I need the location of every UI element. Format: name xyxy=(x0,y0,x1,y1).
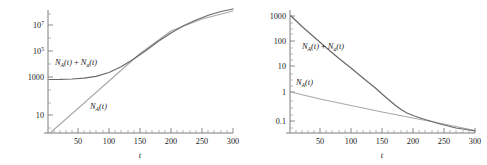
right-ytick-1: 1 xyxy=(281,88,285,97)
left-label-sum-t2: (t) xyxy=(89,58,97,67)
right-ytick-3: 100 xyxy=(273,37,285,46)
right-plot-svg: 1000 100 10 1 0.1 xyxy=(244,0,487,165)
left-ytick-2-base: 10 xyxy=(33,47,41,56)
right-y-ticks xyxy=(290,16,295,121)
left-ytick-0: 10 xyxy=(36,111,44,120)
right-xtick-3: 200 xyxy=(406,137,418,146)
left-xtick-4: 250 xyxy=(196,137,208,146)
right-xtick-0: 50 xyxy=(315,137,323,146)
right-label-na-t1: (t) xyxy=(305,78,313,87)
right-xtick-4: 250 xyxy=(437,137,449,146)
left-xtick-1: 100 xyxy=(103,137,115,146)
left-x-ticks xyxy=(78,128,233,133)
left-x-axis-title: t xyxy=(139,151,142,160)
chart-panel-right: 1000 100 10 1 0.1 xyxy=(244,0,487,165)
left-ytick-2-exp: 5 xyxy=(41,46,44,52)
right-x-ticks xyxy=(320,128,475,133)
left-ytick-3-base: 10 xyxy=(33,21,41,30)
left-curve-sum xyxy=(49,9,233,80)
svg-text:105: 105 xyxy=(33,46,44,56)
right-y-ticklabels: 1000 100 10 1 0.1 xyxy=(269,12,285,126)
two-panel-figure: 107 105 1000 10 xyxy=(0,0,487,165)
chart-panel-left: 107 105 1000 10 xyxy=(0,0,244,165)
left-curve-na xyxy=(50,11,233,133)
right-label-na: NA(t) xyxy=(295,78,313,88)
right-xtick-5: 300 xyxy=(468,137,480,146)
left-label-sum: NA(t) + Na(t) xyxy=(54,58,97,68)
right-y-minor-ticks xyxy=(290,23,293,128)
left-ytick-3-exp: 7 xyxy=(41,20,44,26)
left-ytick-1: 1000 xyxy=(28,73,44,82)
right-label-sum-t2: (t) xyxy=(336,42,344,51)
left-xtick-3: 200 xyxy=(165,137,177,146)
right-xtick-2: 150 xyxy=(375,137,387,146)
right-x-ticklabels: 50 100 150 200 250 300 xyxy=(315,137,480,146)
right-ytick-0: 0.1 xyxy=(275,117,285,126)
left-y-ticklabels: 107 105 1000 10 xyxy=(28,20,45,120)
left-y-ticks xyxy=(48,25,53,115)
left-xtick-0: 50 xyxy=(74,137,82,146)
right-curve-sum xyxy=(291,16,475,131)
right-x-axis-title: t xyxy=(380,151,383,160)
left-label-sum-t1: (t) xyxy=(64,58,72,67)
right-label-sum-t1: (t) xyxy=(311,42,319,51)
right-ytick-4: 1000 xyxy=(269,12,285,21)
left-xtick-5: 300 xyxy=(227,137,239,146)
right-curve-na xyxy=(291,92,475,131)
left-plot-svg: 107 105 1000 10 xyxy=(0,0,243,165)
left-label-na-t1: (t) xyxy=(99,102,107,111)
left-xtick-2: 150 xyxy=(134,137,146,146)
left-label-na: NA(t) xyxy=(89,102,107,112)
right-label-sum: NA(t) + Na(t) xyxy=(301,42,344,52)
left-x-ticklabels: 50 100 150 200 250 300 xyxy=(74,137,239,146)
right-xtick-1: 100 xyxy=(344,137,356,146)
right-ytick-2: 10 xyxy=(277,62,285,71)
svg-text:107: 107 xyxy=(33,20,44,30)
